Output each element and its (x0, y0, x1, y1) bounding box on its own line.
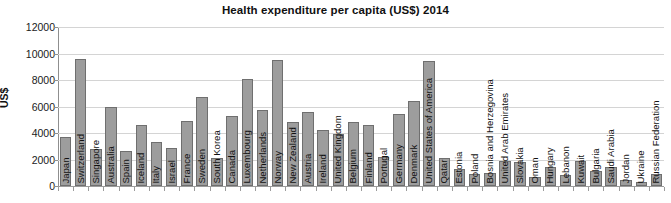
bar-item[interactable]: Estonia (454, 27, 466, 186)
y-axis-tick-label: 10000 (3, 48, 55, 60)
bar-item[interactable]: Belgium (348, 27, 360, 186)
bar-item[interactable]: Lebanon (560, 27, 572, 186)
bar-item[interactable]: United Kingdom (333, 27, 345, 186)
bar[interactable] (560, 175, 572, 186)
bar-item[interactable]: Australia (105, 27, 117, 186)
bar[interactable] (378, 157, 390, 186)
bar[interactable] (469, 174, 481, 186)
bar[interactable] (90, 149, 102, 186)
bar-category-label: Russian Federation (652, 101, 662, 184)
bar[interactable] (242, 79, 254, 186)
x-axis-tick-mark (588, 187, 589, 191)
bar[interactable] (439, 158, 451, 186)
bar[interactable] (257, 110, 269, 186)
x-axis-tick-mark (437, 187, 438, 191)
bar-item[interactable]: Sweden (196, 27, 208, 186)
bar-item[interactable]: Norway (272, 27, 284, 186)
bar-item[interactable]: Iceland (136, 27, 148, 186)
bar[interactable] (348, 122, 360, 186)
bar-item[interactable]: Switzerland (75, 27, 87, 186)
bar[interactable] (166, 148, 178, 186)
bar-item[interactable]: Hungary (545, 27, 557, 186)
bar[interactable] (454, 169, 466, 186)
bar[interactable] (590, 171, 602, 186)
bar[interactable] (605, 167, 617, 186)
bar-item[interactable]: Luxembourg (242, 27, 254, 186)
x-axis-tick-mark (376, 187, 377, 191)
bar-item[interactable]: United States of America (423, 27, 435, 186)
bar-item[interactable]: Austria (302, 27, 314, 186)
bar[interactable] (211, 158, 223, 186)
bar[interactable] (514, 162, 526, 187)
bar[interactable] (105, 107, 117, 187)
bar[interactable] (75, 59, 87, 186)
bar[interactable] (226, 116, 238, 186)
bar-item[interactable]: Saudi Arabia (605, 27, 617, 186)
y-axis-tick-label: 2000 (3, 154, 55, 166)
bar-item[interactable]: Slovakia (514, 27, 526, 186)
x-axis-tick-mark (73, 187, 74, 191)
x-axis-tick-mark (361, 187, 362, 191)
bar[interactable] (136, 125, 148, 186)
x-axis-tick-mark (270, 187, 271, 191)
bar[interactable] (120, 151, 132, 186)
x-axis-tick-mark (406, 187, 407, 191)
x-axis-tick-mark (88, 187, 89, 191)
bar[interactable] (529, 177, 541, 186)
x-axis-tick-mark (391, 187, 392, 191)
bar-item[interactable]: Oman (529, 27, 541, 186)
bar-item[interactable]: United Arab Emirates (499, 27, 511, 186)
bar[interactable] (333, 134, 345, 186)
bar[interactable] (545, 167, 557, 186)
bar[interactable] (302, 112, 314, 186)
bar-item[interactable]: Bosnia and Herzegovina (484, 27, 496, 186)
bar-item[interactable]: Canada (226, 27, 238, 186)
bar-item[interactable]: Finland (363, 27, 375, 186)
bar[interactable] (151, 142, 163, 186)
x-axis-tick-mark (225, 187, 226, 191)
bar-item[interactable]: Germany (393, 27, 405, 186)
bar[interactable] (484, 173, 496, 186)
bar-item[interactable]: Poland (469, 27, 481, 186)
bar-item[interactable]: New Zealand (287, 27, 299, 186)
bar-item[interactable]: Kuwait (575, 27, 587, 186)
bar[interactable] (181, 121, 193, 186)
bar-series: JapanSwitzerlandSingaporeAustraliaSpainI… (58, 27, 664, 186)
bar-item[interactable]: South Korea (211, 27, 223, 186)
bar-item[interactable]: Jordan (620, 27, 632, 186)
bar[interactable] (575, 161, 587, 186)
bar[interactable] (287, 122, 299, 186)
bar-item[interactable]: Japan (60, 27, 72, 186)
x-axis-tick-mark (58, 187, 59, 191)
bar-item[interactable]: Ukraine (636, 27, 648, 186)
bar[interactable] (60, 137, 72, 186)
bar[interactable] (423, 61, 435, 186)
x-axis-tick-mark (467, 187, 468, 191)
bar-item[interactable]: Israel (166, 27, 178, 186)
bar[interactable] (499, 161, 511, 186)
x-axis-tick-mark (558, 187, 559, 191)
bar-item[interactable]: Singapore (90, 27, 102, 186)
bar-item[interactable]: Ireland (317, 27, 329, 186)
bar-item[interactable]: Spain (120, 27, 132, 186)
bar-item[interactable]: Qatar (439, 27, 451, 186)
bar[interactable] (272, 60, 284, 186)
bar[interactable] (393, 114, 405, 186)
bar-item[interactable]: Netherlands (257, 27, 269, 186)
bar[interactable] (651, 174, 663, 186)
bar-item[interactable]: Italy (151, 27, 163, 186)
bar[interactable] (317, 130, 329, 186)
bar-item[interactable]: Russian Federation (651, 27, 663, 186)
y-axis-tick-label: 12000 (3, 21, 55, 33)
bar[interactable] (363, 125, 375, 186)
x-axis-tick-mark (513, 187, 514, 191)
bar[interactable] (196, 97, 208, 186)
bar-item[interactable]: Portugal (378, 27, 390, 186)
bar[interactable] (408, 101, 420, 186)
bar-item[interactable]: Denmark (408, 27, 420, 186)
x-axis-tick-mark (285, 187, 286, 191)
bar-item[interactable]: France (181, 27, 193, 186)
bar-item[interactable]: Bulgaria (590, 27, 602, 186)
x-axis-tick-mark (164, 187, 165, 191)
y-axis-tick-label: 6000 (3, 101, 55, 113)
